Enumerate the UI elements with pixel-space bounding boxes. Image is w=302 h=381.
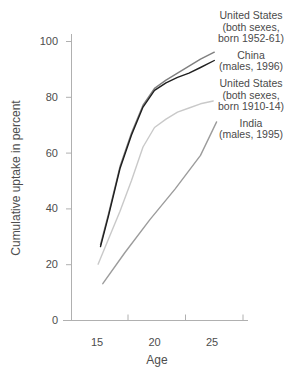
x-axis-title: Age: [146, 353, 167, 367]
y-tick-label: 20: [46, 258, 58, 270]
x-tick-label: 25: [206, 336, 218, 348]
chart-figure: 020406080100152025 Cumulative uptake in …: [0, 0, 302, 381]
legend-label-line: born 1910-14): [202, 101, 300, 113]
y-axis-title: Cumulative uptake in percent: [9, 100, 23, 255]
y-tick-label: 40: [46, 202, 58, 214]
legend: United States (both sexes, born 1952-61)…: [202, 10, 300, 146]
y-tick-label: 60: [46, 147, 58, 159]
legend-label-line: United States: [202, 78, 300, 90]
legend-item-china-1996: China (males, 1996): [202, 50, 300, 73]
legend-label-line: born 1952-61): [202, 33, 300, 45]
y-tick-label: 80: [46, 91, 58, 103]
legend-label-line: (males, 1996): [202, 61, 300, 73]
series-line-3: [103, 122, 217, 284]
legend-label-line: (males, 1995): [202, 129, 300, 141]
legend-item-us-1952-61: United States (both sexes, born 1952-61): [202, 10, 300, 45]
y-tick-label: 0: [52, 314, 58, 326]
legend-item-us-1910-14: United States (both sexes, born 1910-14): [202, 78, 300, 113]
series-line-2: [98, 101, 213, 264]
y-tick-label: 100: [40, 35, 58, 47]
x-tick-label: 20: [148, 336, 160, 348]
legend-item-india-1995: India (males, 1995): [202, 118, 300, 141]
legend-label-line: United States: [202, 10, 300, 22]
x-tick-label: 15: [91, 336, 103, 348]
